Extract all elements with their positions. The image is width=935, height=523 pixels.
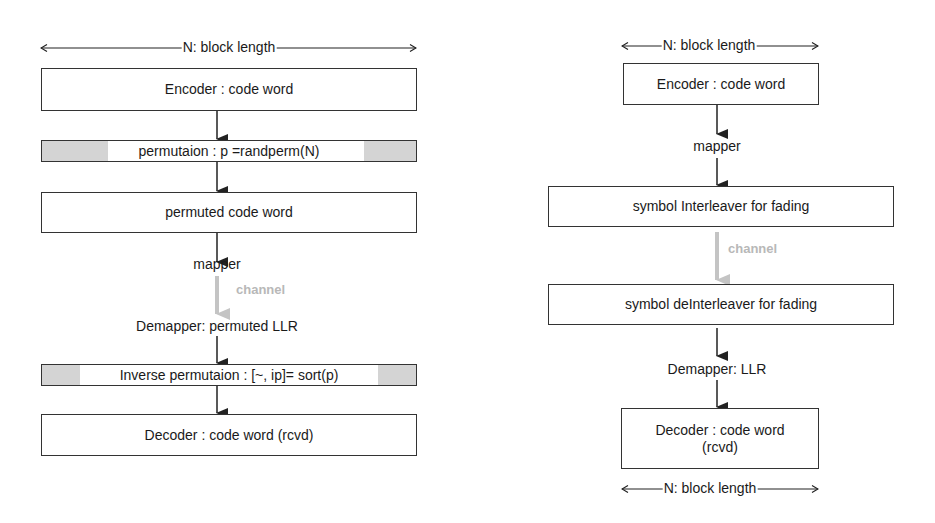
left-inverse-permutation-bar: Inverse permutaion : [~, ip]= sort(p): [41, 364, 417, 386]
left-decoder-box: Decoder : code word (rcvd): [41, 414, 417, 456]
left-permutation-label: permutaion : p =randperm(N): [139, 143, 320, 159]
left-encoder-box: Encoder : code word: [41, 68, 417, 111]
right-interleaver-box: symbol Interleaver for fading: [548, 186, 894, 227]
right-mapper-label: mapper: [693, 138, 740, 154]
left-dimension-label: N: block length: [182, 39, 277, 55]
right-demapper-label: Demapper: LLR: [668, 361, 767, 377]
right-top-dimension-label: N: block length: [662, 37, 757, 53]
left-decoder-label: Decoder : code word (rcvd): [145, 427, 314, 444]
shade-left: [42, 141, 108, 161]
right-decoder-box: Decoder : code word (rcvd): [621, 408, 819, 469]
shade-right: [364, 141, 416, 161]
left-encoder-label: Encoder : code word: [165, 81, 293, 98]
left-inverse-permutation-label: Inverse permutaion : [~, ip]= sort(p): [120, 367, 339, 383]
right-encoder-label: Encoder : code word: [657, 76, 785, 93]
left-mapper-label: mapper: [193, 256, 240, 272]
left-permuted-label: permuted code word: [165, 204, 293, 221]
right-decoder-label-line1: Decoder : code word: [655, 422, 784, 439]
right-channel-label: channel: [728, 241, 777, 256]
left-permuted-box: permuted code word: [41, 192, 417, 233]
right-interleaver-label: symbol Interleaver for fading: [633, 198, 810, 215]
right-bottom-dimension-label: N: block length: [663, 480, 758, 496]
right-deinterleaver-label: symbol deInterleaver for fading: [625, 296, 817, 313]
left-demapper-label: Demapper: permuted LLR: [136, 318, 298, 334]
left-permutation-bar: permutaion : p =randperm(N): [41, 140, 417, 162]
right-deinterleaver-box: symbol deInterleaver for fading: [548, 284, 894, 325]
left-channel-label: channel: [236, 282, 285, 297]
shade-left: [42, 365, 80, 385]
right-encoder-box: Encoder : code word: [623, 63, 819, 105]
right-decoder-label-line2: (rcvd): [702, 439, 738, 456]
shade-right: [378, 365, 416, 385]
